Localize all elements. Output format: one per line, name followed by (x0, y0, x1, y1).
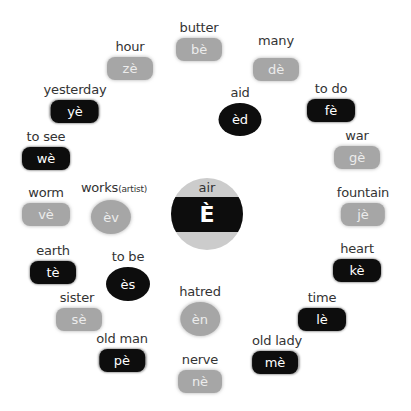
word-node-war: war gè (334, 128, 380, 169)
sound-pill: mè (252, 351, 298, 374)
word-label-note: (artist) (118, 184, 147, 194)
word-node-aid: aid èd (219, 85, 262, 136)
center-letter: È (171, 197, 243, 232)
sound-pill: tè (30, 261, 76, 284)
sound-pill: zè (107, 57, 153, 80)
word-node-to-see: to see wè (22, 129, 70, 170)
word-node-butter: butter bè (176, 20, 222, 61)
word-label: to be (112, 249, 144, 264)
sound-oval: èd (219, 103, 262, 136)
sound-oval: èv (91, 200, 131, 234)
word-node-worm: worm vè (22, 185, 70, 226)
word-node-many: many dè (253, 33, 299, 81)
word-node-old-lady: old lady mè (252, 333, 302, 374)
word-node-to-be: to be ès (106, 249, 150, 301)
sound-pill: lè (298, 308, 346, 331)
word-node-to-do: to do fè (307, 81, 355, 122)
word-label: nerve (182, 352, 218, 367)
word-node-works: works(artist) èv (81, 180, 147, 234)
sound-pill: wè (22, 147, 70, 170)
word-label: war (345, 128, 368, 143)
word-node-sister: sister sè (52, 290, 102, 331)
word-label: yesterday (44, 82, 107, 97)
word-node-time: time lè (298, 290, 346, 331)
sound-pill: bè (176, 38, 222, 61)
word-label: to do (315, 81, 347, 96)
word-label: old man (96, 331, 147, 346)
word-label: to see (27, 129, 66, 144)
word-node-old-man: old man pè (96, 331, 147, 372)
sound-pill: kè (333, 259, 381, 282)
sound-oval: èn (180, 302, 220, 336)
word-node-hour: hour zè (107, 39, 153, 80)
word-label: sister (60, 290, 94, 305)
word-node-hatred: hatred èn (179, 284, 220, 336)
word-node-earth: earth tè (30, 243, 76, 284)
center-label: air (171, 180, 243, 195)
word-label: works(artist) (81, 180, 147, 197)
word-label: earth (36, 243, 70, 258)
sound-pill: dè (253, 58, 299, 81)
sound-pill: fè (307, 99, 355, 122)
word-node-yesterday: yesterday yè (44, 82, 107, 123)
sound-pill: jè (341, 203, 385, 226)
sound-pill: gè (334, 146, 380, 169)
word-label: heart (340, 241, 374, 256)
word-label: fountain (337, 185, 389, 200)
word-label: aid (230, 85, 249, 100)
sound-pill: yè (51, 100, 99, 123)
center-node-air: air È (171, 178, 243, 250)
sound-pill: nè (178, 370, 222, 393)
word-label: hour (116, 39, 145, 54)
word-node-fountain: fountain jè (337, 185, 389, 226)
sound-oval: ès (106, 267, 150, 301)
word-node-heart: heart kè (333, 241, 381, 282)
sound-pill: vè (22, 203, 70, 226)
sound-pill: pè (99, 349, 145, 372)
sound-pill: sè (56, 308, 102, 331)
word-label: butter (180, 20, 219, 35)
word-label: time (308, 290, 337, 305)
word-label: many (258, 33, 294, 48)
word-label: hatred (179, 284, 220, 299)
word-node-nerve: nerve nè (178, 352, 222, 393)
word-label: old lady (252, 333, 302, 348)
word-label: worm (28, 185, 64, 200)
